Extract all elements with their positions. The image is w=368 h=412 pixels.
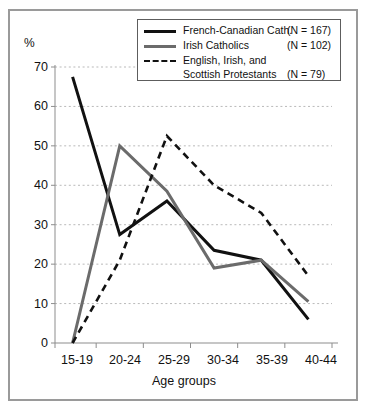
legend-n-value: (N = 167) (287, 24, 331, 36)
chart-legend: French-Canadian Cath. (N = 167) Irish Ca… (137, 19, 341, 81)
series-line (73, 146, 309, 343)
legend-entry-french-canadian: French-Canadian Cath. (N = 167) (138, 24, 342, 39)
legend-swatch-solid-black-icon (144, 30, 176, 33)
legend-swatch-solid-gray-icon (144, 45, 176, 48)
legend-entry-irish-catholics: Irish Catholics (N = 102) (138, 39, 342, 54)
series-line (73, 136, 309, 343)
legend-swatch-dashed-icon (144, 60, 176, 62)
axis-lines (51, 65, 338, 348)
legend-n-value: (N = 102) (287, 39, 331, 51)
legend-entry-protestants: English, Irish, and (138, 54, 342, 69)
legend-label: Irish Catholics (183, 39, 249, 51)
legend-label: English, Irish, and (183, 54, 266, 66)
chart-figure: % 70 60 50 40 30 20 10 0 15-19 20-24 25-… (0, 0, 368, 412)
gridlines (55, 67, 332, 304)
legend-label: French-Canadian Cath. (183, 24, 292, 36)
legend-entry-protestants-line2: Scottish Protestants (N = 79) (138, 68, 342, 83)
legend-label-continued: Scottish Protestants (183, 68, 276, 80)
legend-n-value: (N = 79) (287, 68, 325, 80)
